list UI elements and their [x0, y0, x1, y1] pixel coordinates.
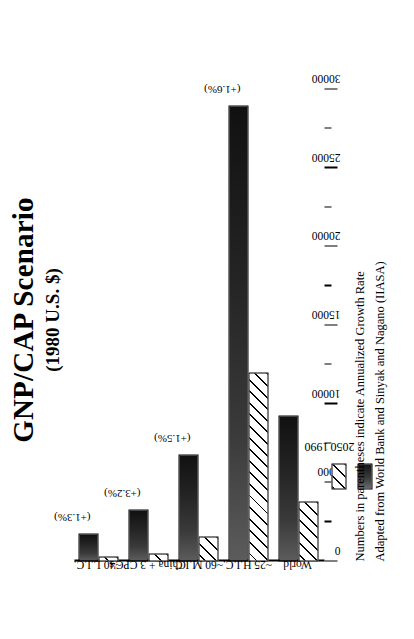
bar-group: ~25 H.I.C.(+1.6%) — [224, 89, 274, 561]
chart-figure: GNP/CAP Scenario (1980 U.S. $) 300002500… — [0, 0, 414, 639]
category-label: ~25 H.I.C. — [222, 558, 271, 570]
bar-group: ~60 M.I.C.(+1.5%) — [174, 89, 224, 561]
bar-group: China + 3 CPC's(+3.2%) — [124, 89, 174, 561]
axis-tick-minor — [324, 363, 331, 364]
bar-2050[interactable] — [228, 105, 248, 561]
bar-1990[interactable] — [298, 501, 318, 561]
growth-rate-annotation: (+1.3%) — [54, 511, 90, 523]
bar-2050[interactable] — [278, 415, 298, 561]
axis-tick-minor — [324, 520, 331, 521]
bar-2050[interactable] — [78, 533, 98, 561]
axis-tick-minor — [324, 206, 331, 207]
bar-1990[interactable] — [248, 372, 268, 561]
bar-group: World — [274, 89, 324, 561]
bar-1990[interactable] — [198, 536, 218, 561]
growth-rate-annotation: (+1.6%) — [204, 83, 240, 95]
chart-subtitle: (1980 U.S. $) — [41, 0, 63, 639]
growth-rate-annotation: (+3.2%) — [104, 487, 140, 499]
axis-tick-label: 30000 — [311, 72, 340, 84]
bar-2050[interactable] — [178, 454, 198, 561]
footnote-growth-rate: Numbers in parentheses indicate Annualiz… — [352, 271, 367, 561]
axis-tick-major — [324, 402, 337, 403]
axis-tick-label: 0 — [334, 544, 340, 556]
rotated-page-wrapper: GNP/CAP Scenario (1980 U.S. $) 300002500… — [0, 0, 414, 639]
axis-tick-minor — [324, 284, 331, 285]
footnote-source: Adapted from World Bank and Sinyak and N… — [372, 261, 387, 561]
axis-tick-major — [324, 324, 337, 325]
axis-tick-minor — [324, 127, 331, 128]
chart-title: GNP/CAP Scenario — [8, 0, 38, 639]
axis-tick-major — [324, 245, 337, 246]
plot-area: 300002500020000150001000050000 ~40 L.I.C… — [74, 89, 324, 561]
category-label: World — [283, 558, 311, 570]
axis-tick-major — [324, 560, 337, 561]
growth-rate-annotation: (+1.5%) — [154, 432, 190, 444]
legend-swatch-1990 — [331, 463, 346, 489]
legend-label-1990: 1990 — [304, 438, 328, 453]
category-label: ~60 M.I.C. — [172, 558, 223, 570]
bar-2050[interactable] — [128, 509, 148, 561]
axis-tick-major — [324, 166, 337, 167]
axis-tick-major — [324, 88, 337, 89]
legend-label-2050: 2050 — [330, 438, 354, 453]
